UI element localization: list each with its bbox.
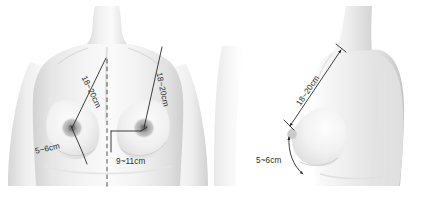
diagram-canvas: 18~20cm 18~20cm 5~6cm 9~11cm (0, 0, 430, 204)
label-midline-to-nipple: 9~11cm (116, 157, 145, 166)
breast-measurement-diagram: 18~20cm 18~20cm 5~6cm 9~11cm (0, 0, 430, 204)
label-profile-nipple-to-fold: 5~6cm (256, 156, 281, 165)
